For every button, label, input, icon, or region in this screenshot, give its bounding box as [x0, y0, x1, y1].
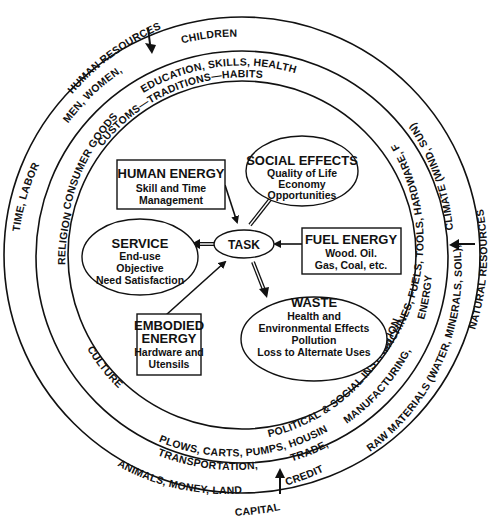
human-resources-arrowhead-icon — [145, 43, 156, 54]
fuel-energy-line: Wood. Oil. — [325, 247, 377, 259]
human-energy-connector — [225, 185, 237, 222]
fuel-energy-title: FUEL ENERGY — [305, 232, 398, 247]
waste-line: Pollution — [292, 334, 337, 346]
task-node: TASK — [214, 230, 274, 258]
religion-label: RELIGION — [55, 211, 73, 265]
waste-connector-gap — [253, 262, 264, 290]
human-energy-line: Management — [139, 194, 204, 206]
human-energy-node: HUMAN ENERGY Skill and Time Management — [117, 160, 225, 209]
ring-labels: HUMAN RESOURCES MEN, WOMEN, CHILDREN EDU… — [0, 0, 489, 518]
waste-node: WASTE Health and Environmental Effects P… — [241, 295, 387, 381]
children-label: CHILDREN — [180, 27, 238, 46]
human-energy-line: Skill and Time — [136, 182, 207, 194]
natural-resources-label: NATURAL RESOURCES — [465, 208, 489, 330]
fuel-energy-node: FUEL ENERGY Wood. Oil. Gas, Coal, etc. — [302, 228, 401, 274]
time-labor-label: TIME, LABOR — [10, 160, 42, 232]
social-effects-connector-gap — [250, 197, 272, 225]
embodied-energy-title: ENERGY — [142, 331, 197, 346]
social-effects-line: Opportunities — [268, 189, 337, 201]
social-effects-node: SOCIAL EFFECTS Quality of Life Economy O… — [246, 136, 358, 206]
waste-line: Loss to Alternate Uses — [257, 346, 371, 358]
credit-label: CREDIT — [284, 462, 326, 488]
human-energy-title: HUMAN ENERGY — [118, 166, 225, 181]
waste-line: Health and — [287, 310, 341, 322]
culture-label: CULTURE — [85, 343, 125, 389]
capital-arrowhead-icon — [275, 468, 285, 478]
capital-label: CAPITAL — [234, 500, 281, 518]
embodied-energy-node: EMBODIED ENERGY Hardware and Utensils — [134, 314, 204, 375]
service-line: End-use — [119, 250, 161, 262]
waste-arrowhead-icon — [259, 287, 269, 298]
consumer-goods-label: CONSUMER GOODS — [60, 110, 120, 210]
service-line: Objective — [116, 262, 163, 274]
service-node: SERVICE End-use Objective Need Satisfact… — [82, 219, 198, 295]
task-label: TASK — [228, 238, 260, 252]
social-effects-title: SOCIAL EFFECTS — [246, 153, 358, 168]
waste-title: WASTE — [291, 295, 338, 310]
task-energy-diagram: HUMAN RESOURCES MEN, WOMEN, CHILDREN EDU… — [0, 0, 496, 519]
service-line: Need Satisfaction — [96, 274, 184, 286]
service-title: SERVICE — [112, 236, 169, 251]
customs-label: CUSTOMS—TRADITIONS—HABITS — [95, 67, 264, 148]
waste-line: Environmental Effects — [259, 322, 370, 334]
embodied-energy-line: Hardware and — [134, 346, 203, 358]
embodied-energy-line: Utensils — [149, 358, 190, 370]
fuel-energy-line: Gas, Coal, etc. — [315, 259, 387, 271]
